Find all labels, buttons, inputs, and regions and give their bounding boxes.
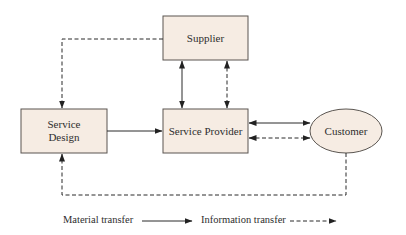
- legend-material-label: Material transfer: [63, 214, 133, 225]
- supplier-label: Supplier: [163, 16, 248, 60]
- service-design-label-line1: Service: [48, 118, 81, 131]
- edge-supplier-to-service-design: [62, 39, 163, 108]
- customer-label: Customer: [310, 109, 382, 153]
- supplier-label-text: Supplier: [187, 32, 224, 45]
- service-design-label: Service Design: [21, 109, 107, 153]
- customer-label-text: Customer: [325, 125, 368, 138]
- legend-information-label: Information transfer: [201, 214, 286, 225]
- service-design-label-line2: Design: [48, 131, 79, 144]
- service-provider-label-text: Service Provider: [169, 125, 243, 138]
- service-provider-label: Service Provider: [163, 109, 248, 153]
- edge-customer-to-service-design: [62, 153, 346, 195]
